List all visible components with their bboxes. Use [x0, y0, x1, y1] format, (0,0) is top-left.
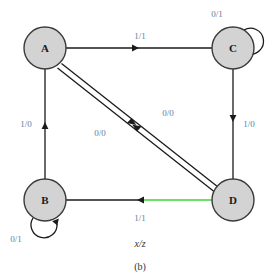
edge-label-b-to-a: 1/0 — [20, 119, 32, 129]
state-diagram-figure: 1/1 0/1 1/0 0/0 0/0 — [0, 0, 276, 278]
notation-key-label: x/z — [133, 238, 145, 249]
edge-d-to-b-arrowhead — [137, 197, 144, 204]
state-node-b[interactable]: B — [24, 179, 66, 221]
edge-label-d-to-b: 1/1 — [134, 213, 146, 223]
edge-label-a-to-d: 0/0 — [162, 108, 174, 118]
edge-a-to-c-arrowhead — [132, 45, 139, 52]
edge-label-c-to-d: 1/0 — [243, 119, 255, 129]
edge-label-b-self-loop: 0/1 — [10, 234, 22, 244]
state-diagram-canvas: 1/1 0/1 1/0 0/0 0/0 — [0, 0, 276, 278]
edge-label-a-to-c: 1/1 — [134, 31, 146, 41]
state-node-b-label: B — [41, 194, 49, 206]
edge-label-d-to-a: 0/0 — [94, 128, 106, 138]
edge-b-to-a: 1/0 — [20, 69, 48, 179]
state-node-c-label: C — [229, 42, 237, 54]
state-node-a[interactable]: A — [24, 27, 66, 69]
edge-d-to-a-line — [58, 68, 215, 192]
edge-b-self-loop: 0/1 — [10, 218, 59, 244]
edge-a-to-d-line — [62, 64, 219, 188]
state-node-d[interactable]: D — [212, 179, 254, 221]
state-node-c[interactable]: C — [212, 27, 254, 69]
edge-a-to-d: 0/0 — [62, 64, 219, 188]
state-node-a-label: A — [41, 42, 49, 54]
edge-label-c-self-loop: 0/1 — [211, 9, 223, 19]
edge-d-to-b: 1/1 — [66, 197, 212, 223]
figure-caption: (b) — [134, 261, 146, 273]
state-node-d-label: D — [229, 194, 237, 206]
edge-c-to-d-arrowhead — [230, 115, 237, 122]
edge-c-to-d: 1/0 — [230, 69, 256, 179]
edge-a-to-c: 1/1 — [66, 31, 212, 51]
edge-d-to-a: 0/0 — [58, 68, 215, 192]
edge-b-to-a-arrowhead — [42, 122, 49, 129]
